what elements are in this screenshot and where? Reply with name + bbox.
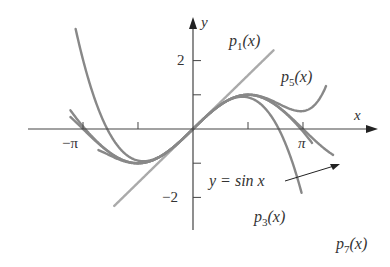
- x-axis-arrow-icon: [366, 125, 378, 133]
- label-p7: p7(x): [335, 235, 367, 255]
- y-tick-label-neg2: −2: [162, 189, 178, 205]
- svg-text:p3(x): p3(x): [253, 208, 285, 228]
- curves-group: [70, 29, 333, 206]
- svg-text:p1(x): p1(x): [228, 32, 260, 52]
- sin-label-arrow: [285, 166, 334, 181]
- label-p3: p3(x): [253, 208, 285, 228]
- x-axis-label: x: [353, 107, 361, 123]
- sin-label-arrowhead-icon: [330, 164, 340, 170]
- svg-text:p5(x): p5(x): [280, 68, 312, 88]
- y-axis-arrow-icon: [189, 17, 197, 29]
- curve-p3-x: [76, 29, 302, 193]
- label-sin-x: y = sin x: [207, 172, 265, 190]
- y-tick-label-2: 2: [177, 52, 185, 68]
- taylor-polynomial-chart: x y −π π 2 −2 p1(x) p5(x) p3(x) p7(x) y …: [0, 0, 390, 267]
- label-p5: p5(x): [280, 68, 312, 88]
- x-tick-label-neg-pi: −π: [62, 135, 78, 151]
- svg-text:p7(x): p7(x): [335, 235, 367, 255]
- curve-p5-x: [98, 86, 326, 163]
- y-axis-label: y: [199, 14, 208, 30]
- x-tick-label-pi: π: [298, 135, 306, 151]
- label-p1: p1(x): [228, 32, 260, 52]
